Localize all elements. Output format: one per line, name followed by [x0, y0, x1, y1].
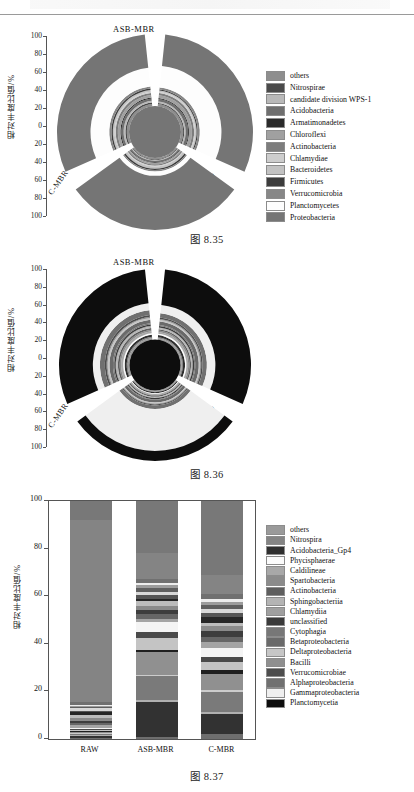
- x-tick-label: ASB-MBR: [126, 745, 186, 754]
- bar-segment: [201, 714, 243, 734]
- polar-chart-1: 相对丰度比值/% 10080604020020406080100 ASB-MBR…: [0, 18, 265, 234]
- y-tick-label: 80: [20, 193, 42, 202]
- legend-label: Proteobacteria: [290, 214, 335, 222]
- legend-1: othersNitrospiraecandidate division WPS-…: [266, 70, 371, 223]
- y-tick-mark: [43, 305, 46, 306]
- y-tick-mark: [43, 429, 46, 430]
- y-tick-label: 100: [20, 494, 42, 503]
- y-tick-mark: [43, 376, 46, 377]
- y-tick-mark: [43, 144, 46, 145]
- y-tick-label: 20: [20, 139, 42, 148]
- y-tick-label: 20: [20, 371, 42, 380]
- y-tick-mark: [43, 447, 46, 448]
- y-tick-mark: [43, 216, 46, 217]
- y-tick-label: 40: [20, 317, 42, 326]
- legend-item: Acidobacteria: [266, 105, 371, 117]
- y-tick-mark: [43, 394, 46, 395]
- y-axis-line: [46, 269, 47, 447]
- y-tick-mark: [43, 54, 46, 55]
- y-tick-label: 40: [20, 389, 42, 398]
- rose-core: [129, 106, 181, 158]
- legend-item: Firmicutes: [266, 176, 371, 188]
- bar-segment: [136, 553, 178, 579]
- legend-swatch: [266, 153, 285, 163]
- bar-segment: [201, 575, 243, 594]
- bar-c-mbr: [201, 501, 243, 739]
- bar-segment: [70, 501, 112, 520]
- bar-asb-mbr: [136, 501, 178, 739]
- y-tick-label: 60: [20, 175, 42, 184]
- legend-item: Planctomycetes: [266, 200, 371, 212]
- y-tick-mark: [43, 358, 46, 359]
- x-tick-label: RAW: [60, 745, 120, 754]
- y-tick-label: 40: [20, 157, 42, 166]
- legend-item: Proteobacteria: [266, 212, 371, 224]
- bar-segment: [136, 737, 178, 739]
- y-tick-label: 100: [20, 442, 42, 451]
- bar-segment: [136, 702, 178, 737]
- polar-chart-2: 相对丰度比值/% 10080604020020406080100 ASB-MBR…: [0, 255, 265, 465]
- bar-segment: [201, 734, 243, 739]
- y-tick-mark: [43, 108, 46, 109]
- bar-segment: [70, 738, 112, 739]
- polar-rose-2: [57, 267, 253, 463]
- y-tick-label: 60: [20, 589, 42, 598]
- bar-segment: [136, 638, 178, 650]
- legend-swatch: [266, 165, 285, 175]
- y-tick-mark: [43, 72, 46, 73]
- caption-fig-8-37: 图 8.37: [0, 768, 414, 783]
- legend-label: Bacteroidetes: [290, 166, 332, 174]
- x-tick-label: C-MBR: [191, 745, 251, 754]
- polar-rose-1: [55, 32, 255, 232]
- y-tick-label: 0: [20, 353, 42, 362]
- y-tick-mark: [43, 411, 46, 412]
- caption-fig-8-35: 图 8.35: [0, 231, 414, 246]
- legend-label: candidate division WPS-1: [290, 96, 371, 104]
- legend-swatch: [266, 142, 285, 152]
- bar-segment: [136, 652, 178, 675]
- legend-item: Chlamydiae: [266, 153, 371, 165]
- y-tick-label: 80: [20, 282, 42, 291]
- legend-swatch: [266, 71, 285, 81]
- y-tick-mark: [43, 180, 46, 181]
- y-axis-title-2: 相对丰度比值/%: [6, 307, 17, 372]
- y-tick-label: 60: [20, 67, 42, 76]
- sector-label-asb-mbr-2: ASB-MBR: [113, 257, 155, 267]
- legend-item: Verrucomicrobia: [266, 188, 371, 200]
- y-tick-mark: [43, 322, 46, 323]
- y-axis-title-1: 相对丰度比值/%: [6, 74, 17, 139]
- legend-label: Nitrospirae: [290, 84, 325, 92]
- legend-swatch: [266, 189, 285, 199]
- bar-raw: [70, 501, 112, 739]
- legend-item: Nitrospirae: [266, 82, 371, 94]
- y-tick-label: 40: [20, 637, 42, 646]
- y-tick-label: 80: [20, 542, 42, 551]
- legend-label: Firmicutes: [290, 178, 323, 186]
- legend-swatch: [266, 130, 285, 140]
- legend-label: Chloroflexi: [290, 131, 326, 139]
- figure-8-36: 相对丰度比值/% 10080604020020406080100 ASB-MBR…: [0, 255, 414, 465]
- legend-item: Chloroflexi: [266, 129, 371, 141]
- y-tick-mark: [43, 162, 46, 163]
- stacked-bar-plot-area: [48, 500, 256, 740]
- page-header-ghost-text: [30, 0, 390, 9]
- y-tick-label: 80: [20, 424, 42, 433]
- legend-item: candidate division WPS-1: [266, 94, 371, 106]
- y-tick-label: 20: [20, 103, 42, 112]
- legend-swatch: [266, 106, 285, 116]
- y-tick-mark: [43, 269, 46, 270]
- legend-swatch: [266, 201, 285, 211]
- y-tick-label: 60: [20, 406, 42, 415]
- bar-segment: [201, 501, 243, 575]
- legend-label: Acidobacteria: [290, 107, 334, 115]
- y-tick-label: 100: [20, 31, 42, 40]
- bar-segment: [201, 648, 243, 658]
- y-tick-mark: [43, 90, 46, 91]
- legend-label: Actinobacteria: [290, 143, 336, 151]
- y-tick-mark: [43, 340, 46, 341]
- y-tick-mark: [43, 198, 46, 199]
- bar-segment: [136, 676, 178, 700]
- y-tick-label: 100: [20, 264, 42, 273]
- legend-label: Armatimonadetes: [290, 119, 345, 127]
- legend-item: Actinobacteria: [266, 141, 371, 153]
